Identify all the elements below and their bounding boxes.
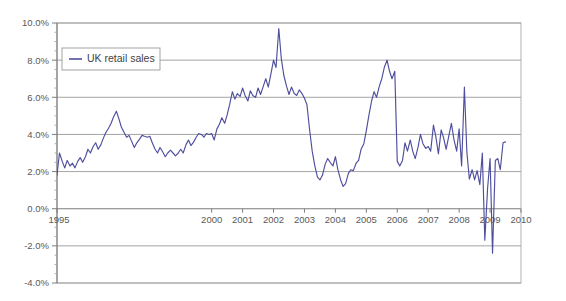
x-tick-label: 1995 [48, 214, 69, 225]
x-tick-label: 2005 [356, 214, 377, 225]
x-tick-label: 2010 [510, 214, 531, 225]
y-tick-label: 2.0% [27, 166, 49, 177]
retail-sales-line-chart: 10.0%8.0%6.0%4.0%2.0%0.0%-2.0%-4.0% 1995… [0, 0, 566, 301]
y-tick-label: 4.0% [27, 129, 49, 140]
x-tick-label: 2009 [479, 214, 500, 225]
chart-background [0, 0, 566, 301]
x-tick-label: 2006 [387, 214, 408, 225]
y-tick-label: 0.0% [27, 203, 49, 214]
x-tick-label: 2002 [263, 214, 284, 225]
legend-label: UK retail sales [87, 52, 155, 64]
chart-legend: UK retail sales [62, 48, 160, 70]
x-tick-label: 2008 [449, 214, 470, 225]
x-tick-label: 2003 [294, 214, 315, 225]
x-tick-label: 2004 [325, 214, 346, 225]
y-tick-label: 6.0% [27, 92, 49, 103]
x-tick-label: 2001 [232, 214, 253, 225]
y-tick-label: 8.0% [27, 55, 49, 66]
x-tick-label: 2000 [201, 214, 222, 225]
y-tick-label: -4.0% [24, 277, 49, 288]
x-tick-label: 2007 [418, 214, 439, 225]
chart-container: 10.0%8.0%6.0%4.0%2.0%0.0%-2.0%-4.0% 1995… [0, 0, 566, 301]
y-tick-label: -2.0% [24, 240, 49, 251]
y-tick-label: 10.0% [22, 17, 49, 28]
